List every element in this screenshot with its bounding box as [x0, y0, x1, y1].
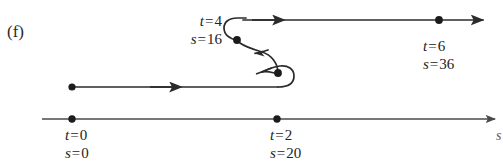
annotation-t2: t=2 s=20: [270, 126, 301, 162]
annotation-t0-time: t=0: [65, 126, 89, 144]
annotation-t6-position: s=36: [423, 55, 454, 73]
annotation-t6-time: t=6: [423, 37, 454, 55]
point-marker-t6: [435, 16, 443, 24]
path-segment-t4-to-t6: [243, 16, 483, 24]
annotation-t6: t=6 s=36: [423, 37, 454, 73]
annotation-t4: t=4 s=16: [191, 12, 222, 48]
part-label: (f): [7, 23, 24, 41]
axis-tick-dot-t0: [68, 115, 75, 122]
annotation-t2-time: t=2: [270, 126, 301, 144]
s-axis-label: s: [496, 127, 501, 145]
axis-tick-dot-t2: [273, 115, 280, 122]
s-axis: [42, 115, 495, 122]
path-segment-s-curve: [224, 18, 294, 87]
annotation-t0: t=0 s=0: [65, 126, 89, 162]
point-marker-t4: [233, 36, 241, 44]
annotation-t0-position: s=0: [65, 144, 89, 162]
path-segment-t0-to-t2: [68, 83, 278, 90]
annotation-t4-position: s=16: [191, 30, 222, 48]
point-marker-t0: [68, 83, 75, 90]
annotation-t4-time: t=4: [191, 12, 222, 30]
annotation-t2-position: s=20: [270, 144, 301, 162]
point-marker-t2-upper: [274, 69, 282, 77]
motion-diagram-figure: (f) t=4 s=16 t=6 s=36 t=0 s=0 t=2 s=20 s: [0, 0, 503, 168]
